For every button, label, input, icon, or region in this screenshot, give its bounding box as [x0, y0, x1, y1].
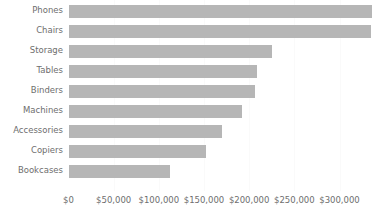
- category-label: Accessories: [0, 124, 63, 137]
- category-label: Phones: [0, 4, 63, 17]
- bar-row[interactable]: Chairs: [0, 25, 379, 38]
- bar[interactable]: [69, 25, 372, 38]
- bar-chart: PhonesChairsStorageTablesBindersMachines…: [0, 0, 379, 215]
- bar-row[interactable]: Copiers: [0, 145, 379, 158]
- x-axis-tick-label: $300,000: [295, 193, 379, 207]
- category-label: Machines: [0, 104, 63, 117]
- category-label: Tables: [0, 64, 63, 77]
- bar-row[interactable]: Phones: [0, 5, 379, 18]
- bar[interactable]: [69, 125, 223, 138]
- bar-row[interactable]: Machines: [0, 105, 379, 118]
- bar[interactable]: [69, 105, 242, 118]
- bar[interactable]: [69, 165, 170, 178]
- bar[interactable]: [69, 145, 206, 158]
- bar[interactable]: [69, 65, 258, 78]
- bars-layer: PhonesChairsStorageTablesBindersMachines…: [0, 0, 379, 191]
- bar[interactable]: [69, 45, 272, 58]
- bar[interactable]: [69, 5, 373, 18]
- x-axis: $0$50,000$100,000$150,000$200,000$250,00…: [0, 191, 379, 215]
- category-label: Binders: [0, 84, 63, 97]
- category-label: Copiers: [0, 144, 63, 157]
- bar-row[interactable]: Bookcases: [0, 165, 379, 178]
- bar-row[interactable]: Storage: [0, 45, 379, 58]
- bar-row[interactable]: Tables: [0, 65, 379, 78]
- bar-row[interactable]: Binders: [0, 85, 379, 98]
- category-label: Storage: [0, 44, 63, 57]
- category-label: Chairs: [0, 24, 63, 37]
- bar[interactable]: [69, 85, 255, 98]
- bar-row[interactable]: Accessories: [0, 125, 379, 138]
- category-label: Bookcases: [0, 164, 63, 177]
